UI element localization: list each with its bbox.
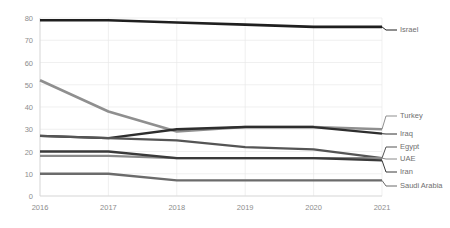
series-line-israel — [40, 20, 382, 27]
series-line-turkey — [40, 80, 382, 131]
legend-leader-saudi-arabia — [382, 180, 397, 186]
x-axis-tick-label: 2017 — [100, 203, 117, 212]
x-axis-tick-label: 2018 — [168, 203, 185, 212]
legend-label-turkey[interactable]: Turkey — [400, 111, 423, 120]
x-axis-tick-label: 2021 — [374, 203, 391, 212]
legend-label-saudi-arabia[interactable]: Saudi Arabia — [400, 181, 443, 190]
gridlines-group — [40, 18, 382, 196]
legend-label-israel[interactable]: Israel — [400, 25, 419, 34]
y-axis-tick-label: 0 — [29, 192, 33, 201]
y-axis-tick-label: 80 — [25, 14, 33, 23]
y-axis-tick-label: 60 — [25, 59, 33, 68]
x-axis-tick-label: 2020 — [305, 203, 322, 212]
series-line-saudi-arabia — [40, 174, 382, 181]
legend-label-iran[interactable]: Iran — [400, 167, 413, 176]
x-axis-tick-label: 2019 — [237, 203, 254, 212]
legend-label-egypt[interactable]: Egypt — [400, 142, 420, 151]
legend-label-uae[interactable]: UAE — [400, 154, 415, 163]
data-series-group — [40, 20, 382, 180]
chart-container: 01020304050607080 2016201720182019202020… — [0, 0, 450, 228]
line-chart-plot: 01020304050607080 2016201720182019202020… — [0, 0, 450, 228]
legend-leader-egypt — [382, 147, 397, 158]
legend-leader-iran — [382, 160, 397, 172]
legend-leader-uae — [382, 158, 397, 159]
legend-label-iraq[interactable]: Iraq — [400, 129, 413, 138]
legend-group: IsraelTurkeyIraqEgyptUAEIranSaudi Arabia — [382, 25, 443, 190]
y-axis-tick-label: 70 — [25, 36, 33, 45]
y-axis-tick-labels: 01020304050607080 — [25, 14, 33, 201]
y-axis-tick-label: 20 — [25, 148, 33, 157]
y-axis-tick-label: 10 — [25, 170, 33, 179]
legend-leader-israel — [382, 27, 397, 30]
y-axis-tick-label: 40 — [25, 103, 33, 112]
x-axis-tick-labels: 201620172018201920202021 — [32, 203, 391, 212]
x-axis-tick-label: 2016 — [32, 203, 49, 212]
y-axis-tick-label: 50 — [25, 81, 33, 90]
y-axis-tick-label: 30 — [25, 125, 33, 134]
legend-leader-turkey — [382, 116, 397, 129]
